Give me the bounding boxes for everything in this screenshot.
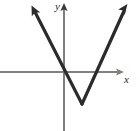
y-axis-label: y [55,1,60,12]
curve-left-arm [35,12,82,104]
x-axis-label: x [124,74,129,85]
curve-right-arm [82,11,124,104]
graph-figure: y x [0,0,140,131]
coordinate-plane-svg [0,0,140,131]
